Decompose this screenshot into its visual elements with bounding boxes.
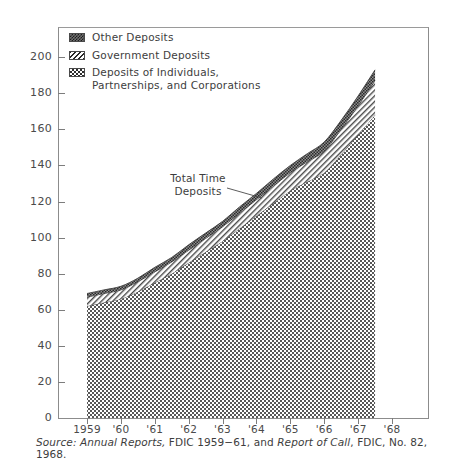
y-tick-label: 180 — [8, 87, 52, 98]
y-tick-label: 120 — [8, 196, 52, 207]
x-tick-mark — [87, 418, 88, 424]
y-tick-label: 0 — [8, 412, 52, 423]
x-tick-mark — [324, 418, 325, 424]
x-tick-mark — [121, 418, 122, 424]
source-report-of-call: Report of Call — [277, 436, 350, 448]
legend-swatch-ipc-deposits — [69, 68, 85, 77]
y-tick-mark — [58, 310, 65, 311]
x-tick-mark — [223, 418, 224, 424]
y-tick-mark — [58, 93, 65, 94]
legend-label-other-deposits: Other Deposits — [92, 31, 174, 44]
x-tick-mark — [392, 418, 393, 424]
y-tick-label: 60 — [8, 304, 52, 315]
y-tick-mark — [58, 238, 65, 239]
y-tick-mark — [58, 129, 65, 130]
y-tick-label: 140 — [8, 159, 52, 170]
source-fdic-years: FDIC 1959−61, and — [165, 436, 277, 448]
y-tick-label: 160 — [8, 123, 52, 134]
legend-swatch-other-deposits — [69, 33, 85, 42]
y-tick-label: 80 — [8, 268, 52, 279]
legend-item-other-deposits: Other Deposits — [69, 31, 261, 44]
legend-label-government-deposits: Government Deposits — [92, 49, 210, 62]
annotation-total-time-deposits: Total Time Deposits — [158, 172, 238, 198]
y-tick-label: 40 — [8, 340, 52, 351]
x-tick-mark — [358, 418, 359, 424]
y-tick-mark — [58, 274, 65, 275]
legend-label-ipc-deposits: Deposits of Individuals, Partnerships, a… — [92, 66, 261, 91]
y-tick-mark — [58, 346, 65, 347]
x-tick-mark — [189, 418, 190, 424]
x-tick-mark — [290, 418, 291, 424]
legend-item-ipc-deposits: Deposits of Individuals, Partnerships, a… — [69, 66, 261, 91]
y-tick-label: 200 — [8, 51, 52, 62]
y-tick-mark — [58, 382, 65, 383]
x-tick-mark — [256, 418, 257, 424]
y-tick-label: 100 — [8, 232, 52, 243]
y-tick-mark — [58, 165, 65, 166]
legend: Other Deposits Government Deposits Depos… — [69, 31, 261, 96]
legend-swatch-government-deposits — [69, 51, 85, 60]
source-prefix: Source: — [36, 436, 77, 448]
y-tick-mark — [58, 202, 65, 203]
source-note: Source: Annual Reports, FDIC 1959−61, an… — [36, 436, 436, 460]
x-tick-label: '68 — [372, 424, 412, 435]
x-tick-mark — [155, 418, 156, 424]
y-tick-label: 20 — [8, 376, 52, 387]
source-annual-reports: Annual Reports, — [77, 436, 166, 448]
legend-item-government-deposits: Government Deposits — [69, 49, 261, 62]
y-tick-mark — [58, 57, 65, 58]
